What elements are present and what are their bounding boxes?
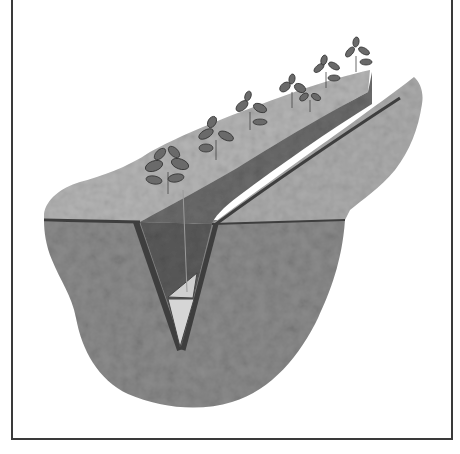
seedling-6 — [344, 37, 372, 72]
soil-trench-illustration — [0, 0, 460, 454]
